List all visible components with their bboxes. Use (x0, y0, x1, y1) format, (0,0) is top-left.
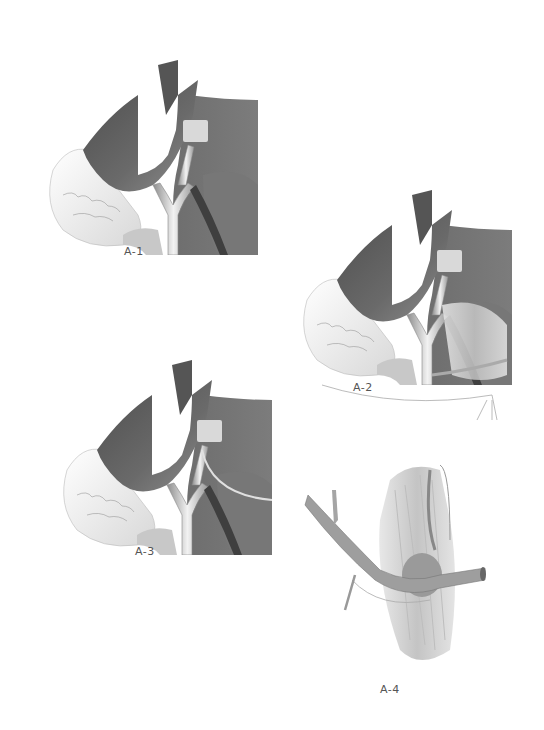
panel-label-a2: A-2 (353, 381, 373, 394)
panel-a1 (28, 55, 268, 255)
panel-label-a1: A-1 (124, 245, 144, 258)
anatomical-illustration-a4 (300, 460, 530, 670)
anatomical-illustration-a3 (42, 355, 282, 555)
panel-label-a4: A-4 (380, 683, 400, 696)
anatomical-illustration-a2 (282, 185, 522, 385)
anatomical-illustration-a1 (28, 55, 268, 255)
vessel-outline-a2 (282, 380, 522, 420)
panel-a2 (282, 185, 522, 385)
panel-a4 (300, 460, 530, 670)
panel-a3 (42, 355, 282, 555)
panel-label-a3: A-3 (135, 545, 155, 558)
